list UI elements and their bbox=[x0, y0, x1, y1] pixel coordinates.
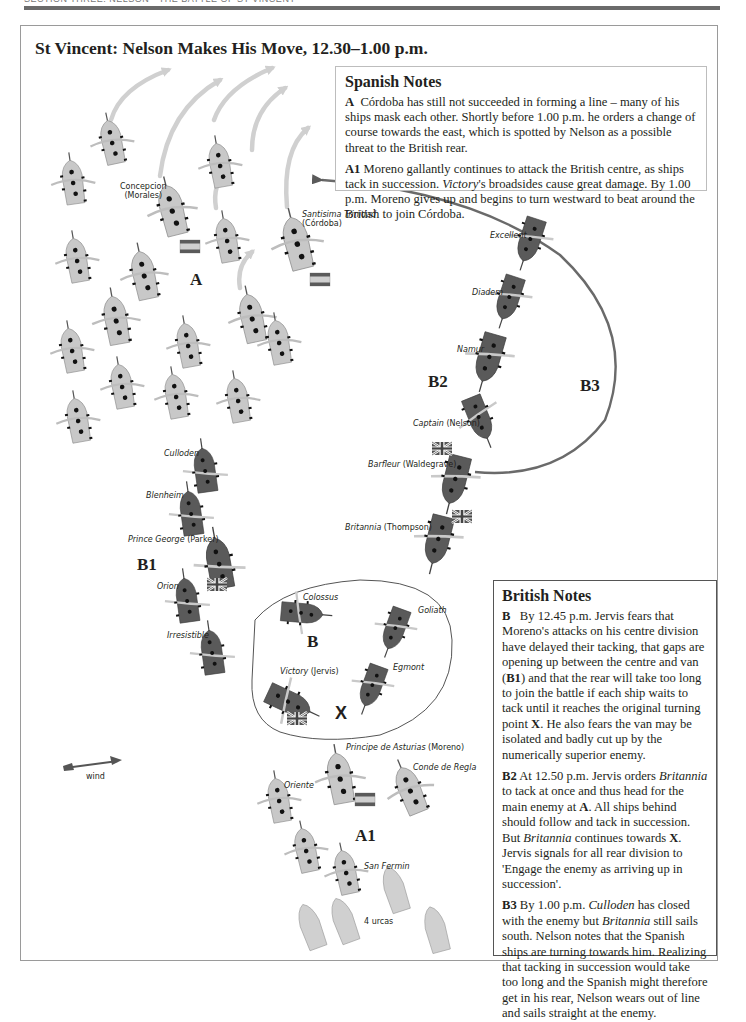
group-label-a1: A1 bbox=[355, 826, 376, 846]
spanish-flag-icon bbox=[355, 793, 375, 806]
ship-label-prince-george: Prince George (Parker) bbox=[128, 535, 219, 544]
ship-label-orion: Orion bbox=[157, 582, 179, 591]
spanish-flag-icon bbox=[310, 273, 330, 286]
ship-label-conde-de-regla: Conde de Regla bbox=[413, 763, 476, 772]
british-flag-icon bbox=[287, 712, 307, 725]
british-flag-icon bbox=[432, 442, 452, 455]
urcas-label: 4 urcas bbox=[364, 917, 393, 926]
british-flag-icon bbox=[207, 578, 227, 591]
ship-label-excellent: Excellent bbox=[490, 231, 527, 240]
ship-label-diadem: Diadem bbox=[472, 288, 503, 297]
spanish-note-a: A Córdoba has still not succeeded in for… bbox=[345, 95, 698, 156]
ship-label-britannia: Britannia (Thompson) bbox=[345, 523, 432, 532]
spanish-notes-box: Spanish Notes A Córdoba has still not su… bbox=[335, 66, 707, 191]
ship-label-principe-de-asturias: Principe de Asturias (Moreno) bbox=[346, 743, 464, 752]
british-note-b2: B2 At 12.50 p.m. Jervis orders Britannia… bbox=[502, 769, 708, 892]
ship-label-barfleur: Barfleur (Waldegrave) bbox=[368, 460, 456, 469]
british-note-b3: B3 By 1.00 p.m. Culloden has closed with… bbox=[502, 898, 708, 1021]
group-label-b1: B1 bbox=[137, 555, 157, 575]
group-label-b2: B2 bbox=[428, 372, 448, 392]
wind-label: wind bbox=[86, 772, 105, 781]
spanish-note-a1: A1 Moreno gallantly continues to attack … bbox=[345, 162, 698, 223]
spanish-flag-icon bbox=[180, 240, 200, 253]
ship-label-goliath: Goliath bbox=[418, 606, 447, 615]
urcas bbox=[293, 864, 451, 954]
map-title: St Vincent: Nelson Makes His Move, 12.30… bbox=[35, 38, 428, 59]
group-label-b3: B3 bbox=[580, 376, 600, 396]
spanish-fleet-a bbox=[45, 108, 329, 445]
ship-label-colossus: Colossus bbox=[303, 593, 338, 602]
ship-label-victory: Victory (Jervis) bbox=[280, 667, 339, 676]
british-van-column bbox=[161, 435, 249, 677]
british-note-b: B By 12.45 p.m. Jervis fears that Moreno… bbox=[502, 609, 708, 763]
ship-label-blenheim: Blenheim bbox=[146, 491, 184, 500]
ship-label-san-fermin: San Fermin bbox=[364, 862, 410, 871]
ship-label-egmont: Egmont bbox=[393, 663, 424, 672]
ship-label-namur: Namur bbox=[457, 345, 484, 354]
ship-label-culloden: Culloden bbox=[164, 449, 199, 458]
group-label-a: A bbox=[190, 270, 202, 290]
spanish-notes-heading: Spanish Notes bbox=[345, 73, 698, 91]
british-notes-heading: British Notes bbox=[502, 587, 708, 605]
wind-arrow-icon bbox=[63, 756, 122, 771]
ship-label-captain: Captain (Nelson) bbox=[413, 419, 480, 428]
ship-label-concepcion: Concepcion(Morales) bbox=[120, 182, 167, 200]
group-label-b: B bbox=[307, 632, 318, 652]
ship-label-irresistible: Irresistible bbox=[167, 631, 209, 640]
british-notes-box: British Notes B By 12.45 p.m. Jervis fea… bbox=[493, 580, 717, 956]
ship-label-oriente: Oriente bbox=[284, 781, 314, 790]
british-flag-icon bbox=[452, 510, 472, 523]
turning-point-x: X bbox=[335, 703, 347, 724]
